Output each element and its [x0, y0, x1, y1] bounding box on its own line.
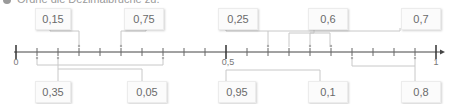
- drag-box-top-4[interactable]: 0,6: [308, 8, 348, 30]
- drag-box-bottom-3[interactable]: 0,95: [218, 81, 256, 103]
- drag-box-top-5[interactable]: 0,7: [401, 8, 441, 30]
- drag-box-top-1[interactable]: 0,15: [35, 8, 71, 30]
- axis-label-1: 1: [433, 57, 438, 67]
- drag-box-bottom-4[interactable]: 0,1: [308, 81, 348, 103]
- drag-box-top-3[interactable]: 0,25: [218, 8, 258, 30]
- drag-box-bottom-2[interactable]: 0,05: [127, 81, 167, 103]
- drag-box-bottom-5[interactable]: 0,8: [401, 81, 441, 103]
- axis-label-half: 0,5: [222, 57, 235, 67]
- arrow-icon: [440, 50, 445, 55]
- drag-box-top-2[interactable]: 0,75: [124, 8, 164, 30]
- top-connectors: [50, 28, 400, 47]
- drag-box-bottom-1[interactable]: 0,35: [35, 81, 71, 103]
- axis-label-0: 0: [13, 57, 18, 67]
